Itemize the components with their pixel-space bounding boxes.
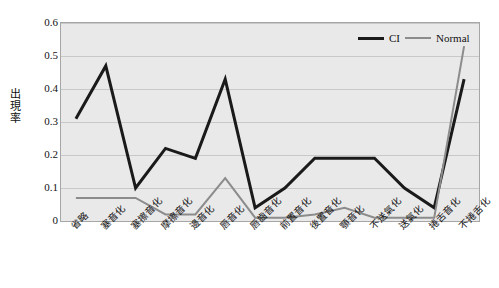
plot-area <box>60 22 480 222</box>
chart-figure: 出 現 率 0.60.50.40.30.20.10 CI Normal 省略塞音… <box>0 0 499 288</box>
chart-legend: CI Normal <box>358 30 471 46</box>
y-tick-label: 0.4 <box>22 83 58 94</box>
y-tick-label: 0.2 <box>22 149 58 160</box>
y-tick-label: 0.3 <box>22 116 58 127</box>
series-lines <box>61 23 479 221</box>
y-tick-label: 0.6 <box>22 17 58 28</box>
legend-swatch-normal <box>405 37 431 39</box>
series-line-ci <box>76 66 464 208</box>
y-axis-ticks: 0.60.50.40.30.20.10 <box>18 0 58 288</box>
y-tick-label: 0 <box>22 215 58 226</box>
x-axis-labels: 省略塞音化塞擦音化摩擦音化邊音化唇音化唇齒音化前置音化後置音化顎音化不送氣化送氣… <box>60 224 480 288</box>
series-line-normal <box>76 46 464 218</box>
legend-label-ci: CI <box>388 32 401 44</box>
legend-swatch-ci <box>358 37 384 40</box>
legend-label-normal: Normal <box>435 32 471 44</box>
y-tick-label: 0.1 <box>22 182 58 193</box>
y-tick-label: 0.5 <box>22 50 58 61</box>
